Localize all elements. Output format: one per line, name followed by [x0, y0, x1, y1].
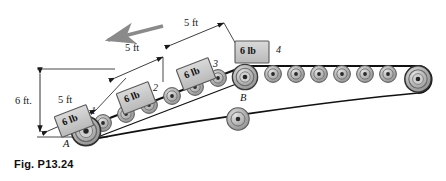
- belt-direction-arrow: [108, 26, 163, 40]
- horizontal-rollers: [265, 66, 397, 83]
- block-1-number-label: 1: [91, 106, 96, 116]
- block-2-number-label: 2: [153, 83, 158, 93]
- conveyor-diagram: [0, 0, 446, 181]
- roller-icon: [334, 66, 351, 83]
- roller-icon: [311, 66, 328, 83]
- dimension-label-6ft: 6 ft.: [15, 96, 32, 107]
- dimension-label-seg1: 5 ft: [58, 95, 72, 106]
- roller-icon: [265, 66, 282, 83]
- point-label-a: A: [63, 139, 69, 150]
- dimension-label-seg2: 5 ft: [125, 43, 139, 54]
- roller-icon: [380, 66, 397, 83]
- pulley-b: [232, 64, 257, 89]
- block-3-number-label: 3: [213, 59, 218, 69]
- point-label-b: B: [240, 93, 246, 104]
- return-roller: [227, 108, 249, 130]
- figure-caption: Fig. P13.24: [14, 158, 74, 170]
- roller-icon: [288, 66, 305, 83]
- pulley-right-end: [405, 66, 431, 92]
- roller-icon: [164, 88, 181, 105]
- physics-figure-p13-24: 6 ft. 5 ft 5 ft 5 ft 6 lb 1 6 lb 2 6 lb …: [0, 0, 446, 181]
- roller-icon: [357, 66, 374, 83]
- block-4-number-label: 4: [276, 45, 281, 55]
- block-4-weight-label: 6 lb: [240, 46, 256, 56]
- belt-incline-inner: [82, 78, 252, 143]
- dimension-label-seg3: 5 ft: [184, 18, 198, 29]
- dimension-seg2-line: [115, 57, 163, 78]
- arrow-icon: [108, 26, 163, 40]
